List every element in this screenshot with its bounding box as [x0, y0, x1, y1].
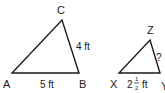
vertex-label-y: Y — [161, 80, 165, 92]
vertex-label-z: Z — [147, 24, 154, 36]
side-label-yz-unknown: ? — [156, 52, 162, 63]
vertex-label-a: A — [3, 78, 11, 90]
side-label-xy-unit: ft — [142, 79, 148, 90]
triangle-xyz — [119, 40, 160, 73]
side-label-xy-numerator: 1 — [135, 76, 139, 82]
side-label-xy: 2 1 2 ft — [127, 76, 148, 91]
vertex-label-c: C — [57, 4, 65, 16]
side-label-bc: 4 ft — [76, 41, 90, 52]
similar-triangles-diagram: C 4 ft A 5 ft B Z ? X 2 1 2 ft Y — [0, 0, 165, 93]
triangle-abc — [12, 20, 79, 73]
vertex-label-b: B — [79, 78, 86, 90]
vertex-label-x: X — [110, 78, 118, 90]
side-label-xy-whole: 2 — [127, 79, 133, 90]
side-label-ab: 5 ft — [40, 79, 54, 90]
side-label-xy-denominator: 2 — [135, 85, 139, 91]
